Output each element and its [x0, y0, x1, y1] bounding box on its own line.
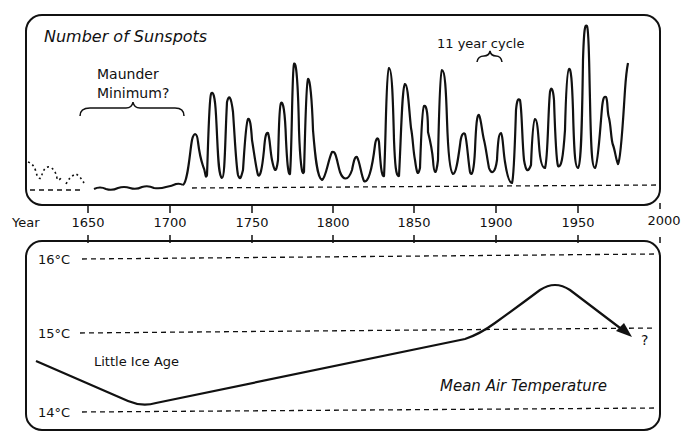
- gridline-16c: [82, 254, 655, 259]
- temperature-panel-frame: [26, 241, 660, 430]
- tick-1650: 1650: [71, 215, 104, 230]
- label-16c: 16°C: [38, 252, 70, 267]
- tick-1700: 1700: [153, 215, 186, 230]
- sunspots-early-dotted: [28, 162, 84, 184]
- label-15c: 15°C: [38, 326, 70, 341]
- arrow-head-icon: [616, 323, 632, 337]
- tick-1800: 1800: [316, 215, 349, 230]
- gridline-14c: [82, 408, 655, 412]
- sunspots-curve: [183, 26, 628, 185]
- sunspot-temperature-figure: Number of Sunspots Maunder Minimum? 11 y…: [0, 0, 692, 443]
- label-14c: 14°C: [38, 405, 70, 420]
- tick-2000: 2000: [647, 213, 680, 228]
- maunder-brace: [80, 102, 184, 116]
- tick-1850: 1850: [397, 215, 430, 230]
- year-axis-label: Year: [11, 215, 40, 230]
- tick-1900: 1900: [479, 215, 512, 230]
- gridline-15c: [80, 328, 655, 333]
- temperature-title: Mean Air Temperature: [440, 377, 607, 395]
- sunspots-title: Number of Sunspots: [44, 27, 207, 46]
- cycle-brace: [477, 51, 502, 62]
- maunder-label-line2: Minimum?: [97, 85, 169, 101]
- maunder-label-line1: Maunder: [97, 66, 159, 82]
- sunspots-maunder-line: [94, 184, 183, 190]
- tick-1750: 1750: [235, 215, 268, 230]
- cycle-label: 11 year cycle: [437, 36, 524, 51]
- question-mark-label: ?: [641, 332, 648, 348]
- tick-1950: 1950: [561, 215, 594, 230]
- baseline-modern: [192, 185, 657, 188]
- little-ice-age-label: Little Ice Age: [94, 354, 179, 369]
